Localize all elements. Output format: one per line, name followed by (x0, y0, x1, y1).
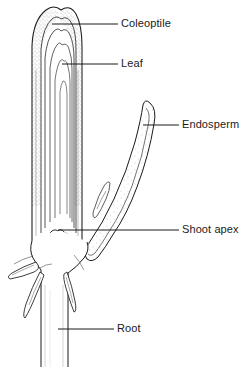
label-root: Root (117, 322, 141, 334)
endosperm-structure (80, 95, 170, 270)
label-leaf: Leaf (121, 57, 143, 69)
label-shoot-apex: Shoot apex (182, 223, 239, 235)
label-endosperm: Endosperm (182, 118, 239, 130)
label-coleoptile: Coleoptile (121, 17, 171, 29)
root-structure (8, 231, 88, 367)
seedling-diagram-svg (0, 0, 247, 367)
seedling-diagram-figure: Coleoptile Leaf Endosperm Shoot apex Roo… (0, 0, 247, 367)
